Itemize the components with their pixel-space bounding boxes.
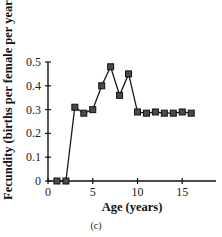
y-tick-label: 0 bbox=[35, 174, 41, 188]
y-tick-label: 0.1 bbox=[26, 150, 41, 164]
fecundity-chart: 00.10.20.30.40.5051015 Age (years) Fecun… bbox=[0, 0, 222, 237]
data-series bbox=[54, 64, 194, 184]
data-point-marker bbox=[126, 71, 132, 77]
data-point-marker bbox=[188, 110, 194, 116]
data-point-marker bbox=[63, 178, 69, 184]
series-line bbox=[57, 67, 191, 181]
x-tick-label: 0 bbox=[45, 185, 51, 199]
x-axis-title: Age (years) bbox=[102, 200, 163, 214]
x-tick-label: 5 bbox=[90, 185, 96, 199]
data-point-marker bbox=[81, 110, 87, 116]
data-point-marker bbox=[179, 109, 185, 115]
axes: 00.10.20.30.40.5051015 bbox=[26, 55, 216, 199]
y-axis-title: Fecundity (births per female per year) bbox=[1, 0, 15, 200]
y-tick-label: 0.3 bbox=[26, 103, 41, 117]
data-point-marker bbox=[152, 109, 158, 115]
data-point-marker bbox=[72, 104, 78, 110]
data-point-marker bbox=[143, 110, 149, 116]
y-tick-label: 0.2 bbox=[26, 126, 41, 140]
y-tick-label: 0.5 bbox=[26, 55, 41, 69]
x-tick-label: 15 bbox=[176, 185, 188, 199]
data-point-marker bbox=[90, 107, 96, 113]
data-point-marker bbox=[108, 64, 114, 70]
y-tick-label: 0.4 bbox=[26, 79, 41, 93]
data-point-marker bbox=[135, 109, 141, 115]
figure-caption: (c) bbox=[90, 220, 101, 232]
data-point-marker bbox=[170, 110, 176, 116]
data-point-marker bbox=[161, 110, 167, 116]
data-point-marker bbox=[99, 83, 105, 89]
data-point-marker bbox=[117, 92, 123, 98]
data-point-marker bbox=[54, 178, 60, 184]
x-tick-label: 10 bbox=[132, 185, 144, 199]
